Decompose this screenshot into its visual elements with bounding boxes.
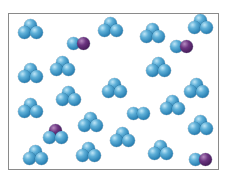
purple-atom [199, 153, 212, 166]
blue-atom [43, 131, 56, 144]
blue-atom [55, 131, 68, 144]
blue-atom [68, 93, 81, 106]
blue-atom [30, 26, 43, 39]
blue-atom [200, 122, 213, 135]
blue-atom [35, 152, 48, 165]
blue-atom [188, 122, 201, 135]
blue-atom [152, 30, 165, 43]
blue-atom [114, 85, 127, 98]
blue-atom [160, 102, 173, 115]
blue-atom [62, 63, 75, 76]
blue-atom [30, 70, 43, 83]
blue-atom [18, 105, 31, 118]
blue-atom [78, 119, 91, 132]
blue-atom [56, 93, 69, 106]
purple-atom [77, 37, 90, 50]
blue-atom [30, 105, 43, 118]
blue-atom [122, 134, 135, 147]
blue-atom [76, 149, 89, 162]
blue-atom [98, 24, 111, 37]
blue-atom [196, 85, 209, 98]
blue-atom [137, 107, 150, 120]
blue-atom [188, 21, 201, 34]
blue-atom [148, 147, 161, 160]
blue-atom [146, 64, 159, 77]
purple-atom [180, 40, 193, 53]
blue-atom [172, 102, 185, 115]
blue-atom [110, 134, 123, 147]
blue-atom [158, 64, 171, 77]
blue-atom [184, 85, 197, 98]
blue-atom [140, 30, 153, 43]
blue-atom [110, 24, 123, 37]
blue-atom [18, 70, 31, 83]
blue-atom [50, 63, 63, 76]
blue-atom [102, 85, 115, 98]
blue-atom [200, 21, 213, 34]
blue-atom [88, 149, 101, 162]
blue-atom [90, 119, 103, 132]
blue-atom [160, 147, 173, 160]
blue-atom [23, 152, 36, 165]
blue-atom [18, 26, 31, 39]
